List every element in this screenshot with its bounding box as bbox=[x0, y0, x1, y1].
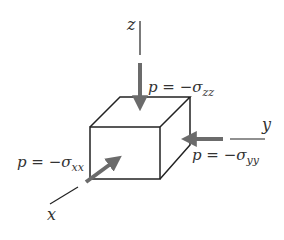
hydrostatic-stress-diagram: z y x p = −σzz p = −σyy p = −σxx bbox=[0, 0, 284, 240]
y-axis-label: y bbox=[261, 115, 272, 134]
zz-load-label: p = −σzz bbox=[148, 78, 214, 99]
xx-load-label: p = −σxx bbox=[17, 153, 85, 174]
yy-load-label: p = −σyy bbox=[192, 146, 260, 167]
x-axis-line bbox=[50, 187, 78, 204]
z-axis-label: z bbox=[126, 15, 136, 34]
cube-right-face bbox=[160, 97, 190, 179]
x-axis-label: x bbox=[47, 205, 56, 224]
